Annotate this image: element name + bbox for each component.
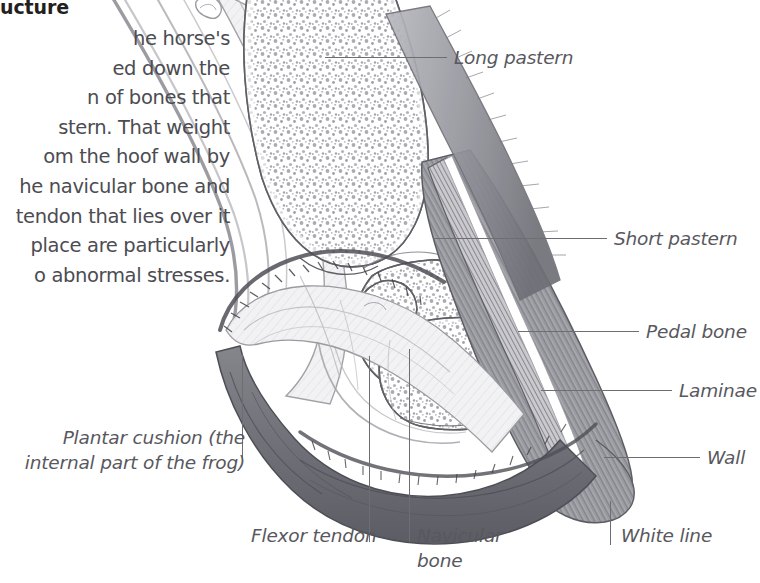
label-plantar-cushion: Plantar cushion (the internal part of th… [0, 425, 245, 475]
label-flexor-tendon: Flexor tendon [251, 523, 376, 548]
leader-line-white-line [610, 501, 611, 545]
section-heading: ucture [0, 0, 230, 18]
article-body-line: n of bones that [0, 83, 230, 113]
leader-line-short-pastern [433, 238, 607, 239]
leader-line-pedal-bone [518, 331, 639, 332]
article-body-line: ed down the [0, 54, 230, 84]
article-body-line: om the hoof wall by [0, 142, 230, 172]
label-short-pastern: Short pastern [614, 226, 738, 251]
leader-line-long-pastern [325, 57, 447, 58]
article-text-column: ucture he horse'sed down then of bones t… [0, 0, 230, 290]
article-body-line: o abnormal stresses. [0, 261, 230, 291]
label-white-line: White line [621, 523, 712, 548]
article-body-line: he navicular bone and [0, 172, 230, 202]
label-wall: Wall [707, 445, 745, 470]
leader-line-wall [604, 457, 700, 458]
label-laminae: Laminae [679, 378, 757, 403]
article-body-line: he horse's [0, 24, 230, 54]
leader-line-laminae [541, 390, 672, 391]
article-body-copy: he horse'sed down then of bones thatster… [0, 24, 230, 290]
leader-line-flexor-tendon [369, 356, 370, 542]
article-body-line: place are particularly [0, 231, 230, 261]
label-navicular-bone: Navicular bone [417, 523, 527, 573]
label-pedal-bone: Pedal bone [646, 319, 747, 344]
label-long-pastern: Long pastern [454, 45, 573, 70]
leader-line-navicular-bone [409, 349, 410, 542]
article-body-line: tendon that lies over it [0, 202, 230, 232]
article-body-line: stern. That weight [0, 113, 230, 143]
diagram-page: Long pastern Short pastern Pedal bone La… [0, 0, 760, 583]
